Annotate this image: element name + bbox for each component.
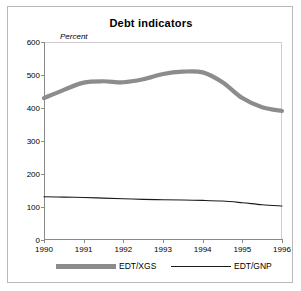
y-axis-label: Percent (60, 32, 88, 41)
y-tick-label: 100 (27, 203, 40, 212)
x-tick-label: 1993 (154, 245, 172, 254)
x-tick-label: 1991 (75, 245, 93, 254)
legend-label-edt-gnp: EDT/GNP (234, 261, 272, 271)
x-tick-label: 1994 (194, 245, 212, 254)
legend-item-edt-gnp: EDT/GNP (171, 261, 272, 271)
legend-swatch-edt-xgs (56, 264, 116, 269)
legend-label-edt-xgs: EDT/XGS (119, 261, 156, 271)
x-tick-label: 1996 (273, 245, 291, 254)
x-tick-mark (282, 239, 283, 243)
y-tick-label: 600 (27, 38, 40, 47)
y-tick-label: 500 (27, 71, 40, 80)
chart-legend: EDT/XGS EDT/GNP (8, 261, 294, 277)
legend-item-edt-xgs: EDT/XGS (56, 261, 156, 271)
x-tick-label: 1995 (233, 245, 251, 254)
plot-area: 0100200300400500600 19901991199219931994… (44, 42, 282, 240)
y-tick-label: 200 (27, 170, 40, 179)
chart-figure: Debt indicators Percent 0100200300400500… (7, 6, 293, 283)
legend-swatch-edt-gnp (171, 266, 231, 267)
series-lines (44, 42, 282, 240)
y-tick-label: 0 (36, 236, 40, 245)
y-tick-label: 300 (27, 137, 40, 146)
x-tick-label: 1992 (114, 245, 132, 254)
y-tick-label: 400 (27, 104, 40, 113)
series-line-edt-xgs (44, 71, 282, 111)
chart-title: Debt indicators (8, 17, 294, 29)
series-line-edt-gnp (44, 197, 282, 206)
x-tick-label: 1990 (35, 245, 53, 254)
